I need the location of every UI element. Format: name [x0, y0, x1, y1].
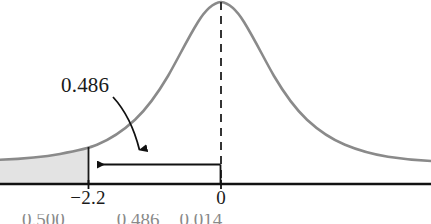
caption-partial-text: 0.5000.4860.014 [22, 214, 222, 224]
caption-clipped-strip: 0.5000.4860.014 [0, 214, 431, 224]
area-callout-arrow [113, 97, 140, 150]
caption-part-3: 0.014 [180, 214, 223, 224]
normal-distribution-figure: 0.486 −2.2 0 0.5000.4860.014 [0, 0, 431, 224]
caption-part-1: 0.500 [22, 214, 65, 224]
area-value-label: 0.486 [61, 75, 109, 96]
x-axis-tick-label-mean: 0 [216, 188, 226, 207]
shaded-tail-region [0, 149, 88, 184]
x-axis-tick-label-zscore: −2.2 [70, 188, 105, 207]
caption-part-2: 0.486 [117, 214, 160, 224]
